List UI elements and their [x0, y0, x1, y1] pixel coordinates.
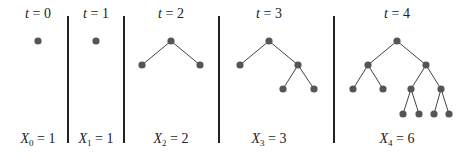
tree-node [34, 37, 41, 44]
tree-edge [426, 65, 441, 89]
tree-node [364, 61, 371, 68]
tree-edge [368, 41, 397, 65]
tree-t0 [34, 37, 41, 44]
population-label: X1 = 1 [79, 131, 114, 148]
tree-t4 [349, 37, 452, 117]
tree-edge [403, 89, 411, 114]
population-label: X2 = 2 [154, 131, 189, 148]
tree-edge [142, 41, 171, 65]
tree-node [437, 85, 444, 92]
tree-edge [411, 65, 426, 89]
tree-node [294, 61, 301, 68]
tree-edge [269, 41, 298, 65]
tree-node [349, 85, 356, 92]
tree-node [399, 110, 406, 117]
tree-edge [441, 89, 449, 114]
tree-node [393, 37, 400, 44]
tree-node [196, 61, 203, 68]
tree-node [430, 110, 437, 117]
tree-node [379, 85, 386, 92]
tree-node [92, 37, 99, 44]
time-label: t = 3 [256, 6, 282, 22]
tree-node [236, 61, 243, 68]
time-label: t = 2 [158, 6, 184, 22]
tree-edge [353, 65, 368, 89]
tree-node [138, 61, 145, 68]
tree-node [167, 37, 174, 44]
tree-t3 [236, 37, 317, 92]
tree-edge [434, 89, 441, 114]
tree-node [279, 85, 286, 92]
time-label: t = 1 [83, 6, 109, 22]
tree-t1 [92, 37, 99, 44]
tree-edge [411, 89, 419, 114]
population-label: X3 = 3 [252, 131, 287, 148]
tree-edge [397, 41, 426, 65]
time-label: t = 4 [384, 6, 410, 22]
tree-node [415, 110, 422, 117]
population-label: X0 = 1 [21, 131, 56, 148]
tree-edge [368, 65, 383, 89]
tree-t2 [138, 37, 203, 68]
tree-node [310, 85, 317, 92]
population-label: X4 = 6 [380, 131, 415, 148]
tree-node [445, 110, 452, 117]
tree-edge [283, 65, 298, 89]
tree-node [422, 61, 429, 68]
tree-node [265, 37, 272, 44]
time-label: t = 0 [25, 6, 51, 22]
tree-edge [171, 41, 200, 65]
tree-edge [240, 41, 269, 65]
tree-edge [298, 65, 314, 89]
tree-node [407, 85, 414, 92]
